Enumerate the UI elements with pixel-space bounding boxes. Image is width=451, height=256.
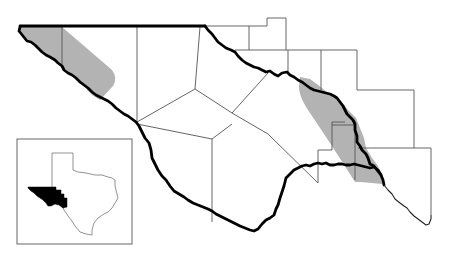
county-line — [268, 134, 318, 183]
county-line — [205, 18, 286, 50]
county-line — [195, 89, 268, 134]
range-area-northwest — [19, 27, 115, 100]
county-line — [137, 27, 200, 122]
inset-locator-map — [17, 139, 132, 244]
range-map — [0, 0, 451, 256]
river-border-southeast — [384, 185, 431, 225]
county-line — [232, 73, 268, 113]
county-line — [137, 124, 232, 139]
